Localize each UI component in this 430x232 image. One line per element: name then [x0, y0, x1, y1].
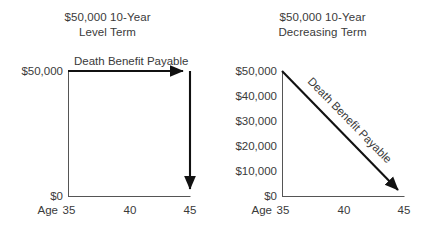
xtick-label-45: 45	[184, 204, 197, 216]
x-axis-title: Age	[38, 204, 58, 216]
ytick-label-0: $0	[50, 190, 63, 202]
xtick-label-40: 40	[124, 204, 137, 216]
death-benefit-decreasing-line	[282, 71, 398, 190]
xtick-label-40: 40	[338, 204, 351, 216]
ytick-label-20000: $20,000	[235, 140, 277, 152]
xtick-label-45: 45	[398, 204, 411, 216]
chart-level-term: $50,000 10-Year Level Term Death Benefit…	[0, 0, 215, 232]
x-axis-title: Age	[252, 204, 272, 216]
series-label-death-benefit-payable: Death Benefit Payable	[74, 55, 188, 67]
xtick-label-35: 35	[277, 204, 290, 216]
series-label-death-benefit-payable: Death Benefit Payable	[306, 75, 395, 165]
xtick-label-35: 35	[63, 204, 76, 216]
ytick-label-0: $0	[264, 190, 277, 202]
ytick-label-30000: $30,000	[235, 115, 277, 127]
plot-area-decreasing-term: Death Benefit Payable $50,000 $40,000 $3…	[215, 0, 430, 232]
ytick-label-50000: $50,000	[21, 65, 63, 77]
ytick-label-10000: $10,000	[235, 165, 277, 177]
plot-area-level-term: Death Benefit Payable $50,000 $0 Age 35 …	[0, 0, 215, 232]
ytick-label-50000: $50,000	[235, 65, 277, 77]
chart-decreasing-term: $50,000 10-Year Decreasing Term Death Be…	[215, 0, 430, 232]
ytick-label-40000: $40,000	[235, 90, 277, 102]
